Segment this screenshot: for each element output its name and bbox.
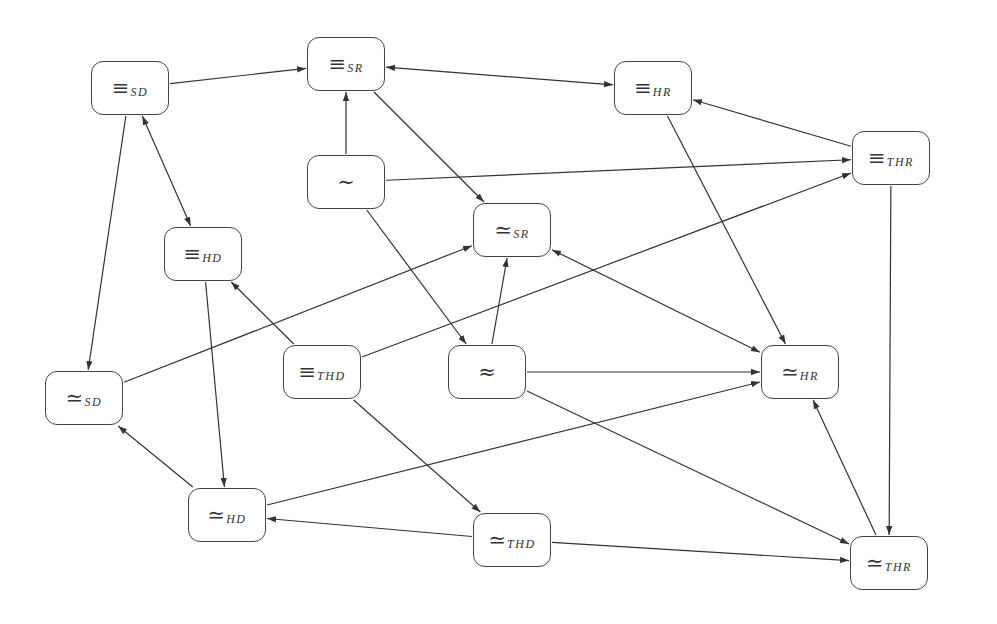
node-symbol: ≡ [634, 78, 652, 99]
node-symbol: ≃ [495, 220, 513, 241]
node-symbol: ≡ [184, 244, 202, 265]
edge-seTHR-seHR [813, 400, 876, 535]
node-symbol: ≃ [488, 530, 506, 551]
node-seTHD: ≃THD [473, 513, 551, 567]
node-eqSR: ≡SR [307, 37, 385, 91]
edge-seHD-seSD [118, 426, 193, 487]
edge-eqTHD-eqHD [231, 282, 294, 344]
node-eqHD: ≡HD [164, 227, 242, 281]
node-seHR: ≃HR [761, 345, 839, 399]
node-eqTHR: ≡THR [852, 131, 930, 185]
node-sim: ∼ [307, 155, 385, 209]
node-eqSD: ≡SD [91, 61, 169, 115]
node-seHD: ≃HD [188, 488, 266, 542]
node-subscript: HD [226, 512, 246, 527]
node-symbol: ≃ [781, 362, 799, 383]
node-seSR: ≃SR [473, 203, 551, 257]
node-subscript: HR [653, 85, 672, 100]
edge-eqHD-seHD [206, 282, 225, 487]
node-symbol: ≡ [112, 78, 130, 99]
edge-approx-seTHR [527, 391, 849, 544]
node-eqHR: ≡HR [614, 61, 692, 115]
node-subscript: HR [800, 369, 819, 384]
edge-eqHR-seHR [667, 116, 785, 344]
node-subscript: THD [317, 369, 346, 384]
node-subscript: THR [887, 155, 914, 170]
node-symbol: ≃ [866, 553, 884, 574]
node-subscript: SR [513, 227, 529, 242]
edge-eqSD-seSD [88, 116, 126, 370]
edge-eqSR-seSR [374, 92, 484, 202]
node-subscript: SD [84, 395, 102, 410]
edge-seSR-seHR [552, 250, 760, 353]
node-symbol: ≡ [329, 54, 347, 75]
edge-approx-seSR [492, 258, 507, 344]
node-approx: ≈ [448, 345, 526, 399]
edge-eqTHR-eqHR [693, 100, 851, 146]
node-symbol: ≈ [478, 362, 496, 383]
node-symbol: ≡ [868, 148, 886, 169]
edge-sim-eqTHR [386, 160, 851, 180]
node-symbol: ≃ [208, 505, 226, 526]
edge-seHD-seHR [267, 382, 760, 505]
node-seSD: ≃SD [45, 371, 123, 425]
node-eqTHD: ≡THD [283, 345, 361, 399]
edge-eqTHR-seTHR [889, 186, 891, 535]
node-subscript: THR [885, 560, 912, 575]
edge-eqSD-eqSR [170, 68, 306, 83]
edge-eqSR-eqHR [386, 67, 613, 85]
edge-seTHD-seTHR [552, 542, 849, 560]
node-seTHR: ≃THR [850, 536, 928, 590]
edge-eqSD-eqHD [142, 116, 190, 226]
node-subscript: HD [202, 251, 222, 266]
node-symbol: ∼ [337, 172, 355, 193]
node-subscript: SD [130, 85, 148, 100]
edge-seTHD-seHD [267, 519, 472, 537]
node-subscript: THD [507, 537, 536, 552]
node-symbol: ≃ [66, 388, 84, 409]
node-symbol: ≡ [298, 362, 316, 383]
node-subscript: SR [347, 61, 363, 76]
